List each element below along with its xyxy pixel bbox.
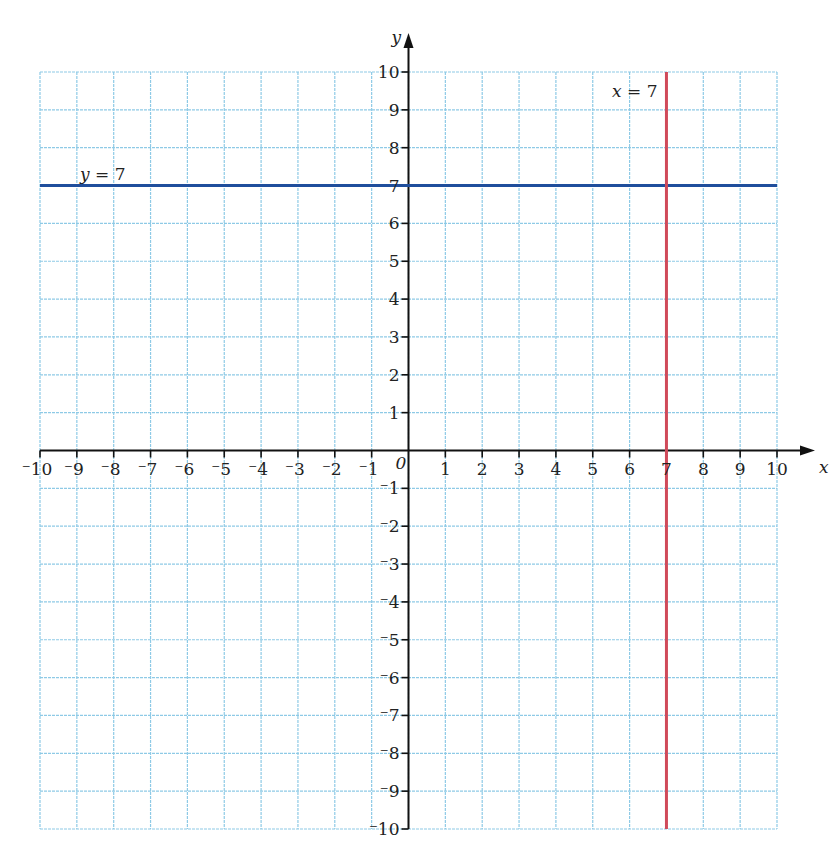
y-tick-label: ⁻1 (380, 478, 400, 498)
annotation-y-equals-7: y = 7 (79, 164, 125, 184)
y-tick-label: ⁻4 (380, 592, 400, 612)
y-tick-label: ⁻8 (380, 743, 400, 763)
y-tick-label: 6 (389, 213, 400, 233)
x-tick-label: ⁻3 (285, 459, 305, 479)
y-axis-arrow-icon (404, 33, 414, 48)
tick-labels: ⁻10⁻9⁻8⁻7⁻6⁻5⁻4⁻3⁻2⁻112345678910⁻10⁻9⁻8⁻… (22, 27, 829, 839)
y-tick-label: 7 (389, 176, 400, 196)
y-tick-label: ⁻6 (380, 668, 400, 688)
y-tick-label: 8 (389, 138, 400, 158)
x-axis-label: x (819, 457, 829, 477)
x-tick-label: ⁻7 (138, 459, 158, 479)
annotation-x-equals-7: x = 7 (612, 81, 657, 101)
y-tick-label: 2 (389, 365, 400, 385)
x-tick-label: ⁻9 (64, 459, 84, 479)
x-tick-label: ⁻1 (359, 459, 379, 479)
x-tick-label: 6 (624, 459, 635, 479)
x-tick-label: ⁻10 (22, 459, 53, 479)
coordinate-plane: ⁻10⁻9⁻8⁻7⁻6⁻5⁻4⁻3⁻2⁻112345678910⁻10⁻9⁻8⁻… (0, 0, 837, 864)
axes (40, 33, 815, 829)
x-tick-label: 10 (766, 459, 788, 479)
origin-label: 0 (396, 453, 407, 473)
y-tick-label: ⁻2 (380, 516, 400, 536)
y-tick-label: 9 (389, 100, 400, 120)
y-axis-label: y (391, 27, 402, 47)
x-tick-label: 5 (587, 459, 598, 479)
x-tick-label: ⁻8 (101, 459, 121, 479)
x-tick-label: ⁻5 (211, 459, 231, 479)
x-axis-arrow-icon (800, 446, 815, 456)
y-tick-label: 1 (389, 403, 400, 423)
y-tick-label: ⁻5 (380, 630, 400, 650)
x-tick-label: 1 (440, 459, 451, 479)
x-tick-label: 4 (550, 459, 561, 479)
x-tick-label: ⁻4 (248, 459, 268, 479)
y-tick-label: ⁻7 (380, 705, 400, 725)
y-tick-label: 4 (389, 289, 400, 309)
x-tick-label: ⁻6 (175, 459, 195, 479)
y-tick-label: 10 (378, 62, 400, 82)
y-tick-label: ⁻9 (380, 781, 400, 801)
y-tick-label: ⁻10 (369, 819, 400, 839)
y-tick-label: 5 (389, 251, 400, 271)
y-tick-label: 3 (389, 327, 400, 347)
x-tick-label: 7 (661, 459, 672, 479)
x-tick-label: 2 (477, 459, 488, 479)
x-tick-label: ⁻2 (322, 459, 342, 479)
x-tick-label: 9 (735, 459, 746, 479)
x-tick-label: 8 (698, 459, 709, 479)
x-tick-label: 3 (514, 459, 525, 479)
y-tick-label: ⁻3 (380, 554, 400, 574)
